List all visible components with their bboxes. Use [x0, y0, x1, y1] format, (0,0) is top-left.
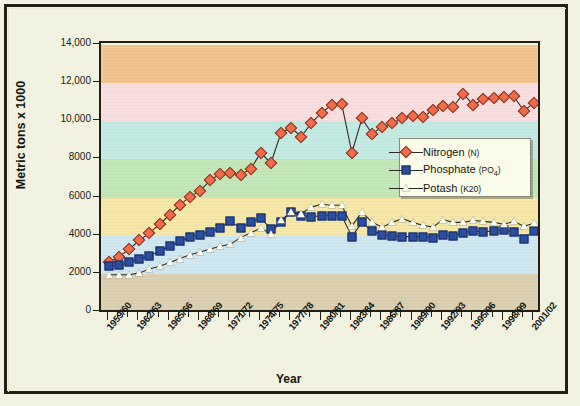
y-tick-mark: [93, 196, 99, 197]
y-axis-ticks: 14,00012,00010,00080006000400020000: [28, 0, 91, 406]
chart-legend: Nitrogen (N)Phosphate (PO4)Potash (K20): [399, 138, 531, 197]
y-tick-label: 14,000: [60, 38, 91, 48]
x-tick-mark-major: [320, 312, 321, 320]
legend-formula: (N): [468, 148, 480, 158]
legend-symbol: [389, 180, 423, 196]
legend-symbol: [389, 144, 423, 160]
legend-line: [389, 188, 423, 189]
legend-line: [389, 152, 423, 153]
y-tick-label: 8000: [69, 152, 91, 162]
y-tick-label: 10,000: [60, 114, 91, 124]
y-tick-label: 6000: [69, 191, 91, 201]
y-tick-label: 2000: [69, 267, 91, 277]
legend-label: Potash (K20): [423, 182, 481, 194]
y-tick-mark: [93, 310, 99, 311]
legend-label: Phosphate (PO4): [423, 163, 501, 177]
legend-label: Nitrogen (N): [423, 146, 479, 158]
legend-item-potash: Potash (K20): [400, 179, 530, 197]
y-tick-mark: [93, 81, 99, 82]
y-tick-mark: [93, 234, 99, 235]
y-axis-title: Metric tons x 1000: [14, 70, 28, 200]
legend-item-phosphate: Phosphate (PO4): [400, 161, 530, 179]
x-axis-title: Year: [276, 372, 301, 386]
series-line-square: [109, 212, 534, 266]
legend-formula: (PO4): [479, 165, 501, 175]
series-line-triangle: [109, 204, 534, 275]
y-tick-label: 4000: [69, 229, 91, 239]
legend-symbol: [389, 162, 423, 178]
legend-line: [389, 170, 423, 171]
chart-screenshot: 14,00012,00010,00080006000400020000 Metr…: [0, 0, 580, 406]
y-tick-mark: [93, 119, 99, 120]
y-tick-mark: [93, 272, 99, 273]
y-tick-mark: [93, 157, 99, 158]
y-tick-label: 12,000: [60, 76, 91, 86]
legend-item-nitrogen: Nitrogen (N): [400, 143, 530, 161]
legend-formula: (K20): [460, 184, 481, 194]
y-tick-mark: [93, 43, 99, 44]
y-tick-label: 0: [85, 305, 91, 315]
